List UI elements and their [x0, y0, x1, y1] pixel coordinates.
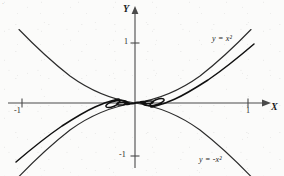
x-axis-arrowhead [262, 100, 271, 107]
plot-canvas [0, 0, 284, 176]
curve-oscillating-left [16, 99, 135, 162]
curve-oscillating-right [135, 44, 254, 107]
axis-group [8, 6, 271, 168]
math-figure [0, 0, 284, 176]
y-axis-arrowhead [132, 6, 139, 14]
